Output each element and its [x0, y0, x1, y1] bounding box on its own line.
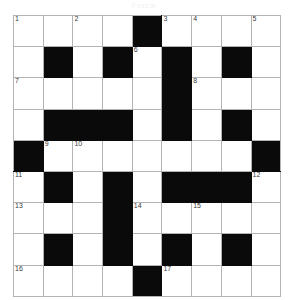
crossword-row: 1112 — [14, 171, 281, 202]
crossword-block-cell — [162, 171, 192, 202]
crossword-cell[interactable]: 4 — [192, 16, 222, 47]
clue-number: 3 — [163, 15, 167, 23]
crossword-cell[interactable]: 8 — [192, 78, 222, 109]
crossword-cell[interactable]: 11 — [14, 171, 44, 202]
crossword-cell[interactable] — [73, 171, 103, 202]
crossword-cell[interactable] — [14, 234, 44, 265]
crossword-cell[interactable]: 12 — [251, 171, 281, 202]
crossword-block-cell — [43, 234, 73, 265]
clue-number: 11 — [15, 171, 22, 179]
crossword-block-cell — [162, 234, 192, 265]
crossword-block-cell — [132, 16, 162, 47]
crossword-cell[interactable] — [221, 265, 251, 296]
crossword-cell[interactable]: 9 — [43, 140, 73, 171]
crossword-cell[interactable] — [251, 265, 281, 296]
crossword-cell[interactable] — [192, 234, 222, 265]
clue-number: 6 — [134, 46, 138, 54]
crossword-block-cell — [221, 109, 251, 140]
crossword-cell[interactable]: 16 — [14, 265, 44, 296]
clue-number: 10 — [74, 140, 82, 148]
crossword-cell[interactable] — [221, 140, 251, 171]
crossword-cell[interactable] — [132, 234, 162, 265]
crossword-cell[interactable] — [73, 47, 103, 78]
crossword-grid-container: 1234567891011121314151617 — [13, 15, 272, 287]
crossword-cell[interactable] — [132, 109, 162, 140]
crossword-cell[interactable] — [162, 140, 192, 171]
crossword-block-cell — [103, 234, 133, 265]
crossword-cell[interactable] — [43, 265, 73, 296]
crossword-row: 78 — [14, 78, 281, 109]
crossword-cell[interactable]: 13 — [14, 203, 44, 234]
crossword-block-cell — [162, 109, 192, 140]
clue-number: 8 — [193, 77, 197, 85]
crossword-cell[interactable]: 1 — [14, 16, 44, 47]
crossword-block-cell — [103, 47, 133, 78]
crossword-row: 1617 — [14, 265, 281, 296]
crossword-block-cell — [162, 78, 192, 109]
crossword-cell[interactable] — [192, 109, 222, 140]
clue-number: 13 — [15, 202, 23, 210]
crossword-cell[interactable]: 6 — [132, 47, 162, 78]
clue-number: 4 — [193, 15, 197, 23]
crossword-block-cell — [192, 171, 222, 202]
clue-number: 17 — [163, 265, 171, 273]
crossword-cell[interactable] — [221, 78, 251, 109]
clue-number: 2 — [74, 15, 78, 23]
crossword-cell[interactable]: 3 — [162, 16, 192, 47]
crossword-cell[interactable] — [43, 16, 73, 47]
crossword-cell[interactable]: 7 — [14, 78, 44, 109]
crossword-cell[interactable] — [14, 109, 44, 140]
crossword-cell[interactable]: 14 — [132, 203, 162, 234]
crossword-cell[interactable] — [73, 265, 103, 296]
clue-number: 5 — [253, 15, 257, 23]
crossword-cell[interactable] — [103, 16, 133, 47]
crossword-cell[interactable] — [73, 203, 103, 234]
page-title: Puzzle — [0, 1, 288, 10]
crossword-row — [14, 109, 281, 140]
crossword-cell[interactable] — [132, 171, 162, 202]
crossword-cell[interactable] — [103, 140, 133, 171]
crossword-cell[interactable]: 5 — [251, 16, 281, 47]
crossword-block-cell — [43, 171, 73, 202]
clue-number: 1 — [15, 15, 19, 23]
clue-number: 14 — [134, 202, 142, 210]
crossword-block-cell — [221, 47, 251, 78]
crossword-cell[interactable]: 17 — [162, 265, 192, 296]
crossword-block-cell — [221, 171, 251, 202]
crossword-cell[interactable] — [251, 78, 281, 109]
crossword-block-cell — [162, 47, 192, 78]
clue-number: 15 — [193, 202, 201, 210]
crossword-cell[interactable] — [43, 78, 73, 109]
crossword-cell[interactable] — [251, 234, 281, 265]
crossword-cell[interactable] — [132, 78, 162, 109]
crossword-cell[interactable] — [192, 140, 222, 171]
crossword-cell[interactable] — [43, 203, 73, 234]
crossword-cell[interactable] — [192, 47, 222, 78]
crossword-row: 6 — [14, 47, 281, 78]
crossword-grid-body: 1234567891011121314151617 — [14, 16, 281, 297]
crossword-cell[interactable] — [103, 78, 133, 109]
crossword-cell[interactable]: 10 — [73, 140, 103, 171]
crossword-cell[interactable] — [221, 16, 251, 47]
crossword-cell[interactable] — [251, 109, 281, 140]
crossword-cell[interactable] — [251, 47, 281, 78]
crossword-block-cell — [43, 47, 73, 78]
crossword-cell[interactable] — [103, 265, 133, 296]
crossword-block-cell — [103, 109, 133, 140]
crossword-cell[interactable] — [192, 265, 222, 296]
crossword-cell[interactable] — [162, 203, 192, 234]
crossword-cell[interactable] — [14, 47, 44, 78]
crossword-block-cell — [73, 109, 103, 140]
crossword-cell[interactable] — [221, 203, 251, 234]
clue-number: 12 — [253, 171, 261, 179]
clue-number: 16 — [15, 265, 23, 273]
crossword-row: 910 — [14, 140, 281, 171]
crossword-block-cell — [43, 109, 73, 140]
crossword-cell[interactable] — [251, 203, 281, 234]
crossword-cell[interactable] — [73, 78, 103, 109]
crossword-cell[interactable] — [73, 234, 103, 265]
crossword-cell[interactable]: 15 — [192, 203, 222, 234]
crossword-cell[interactable]: 2 — [73, 16, 103, 47]
crossword-cell[interactable] — [132, 140, 162, 171]
crossword-block-cell — [132, 265, 162, 296]
